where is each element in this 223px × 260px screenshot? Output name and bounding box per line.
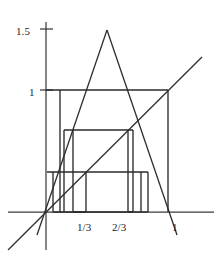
tent-right-branch (107, 30, 177, 235)
tent-left-branch (37, 30, 107, 235)
y-axis-tick-label-1point5: 1.5 (16, 26, 30, 37)
y-axis-tick-label-1: 1 (29, 87, 35, 98)
axes-group (8, 22, 214, 250)
figure-root: 1.5 1 1/3 2/3 1 (0, 0, 223, 260)
tent-map-curve (37, 30, 177, 235)
x-axis-tick-label-two-thirds: 2/3 (112, 222, 126, 233)
x-axis-tick-label-one: 1 (172, 222, 178, 233)
x-axis-tick-label-one-third: 1/3 (77, 222, 91, 233)
